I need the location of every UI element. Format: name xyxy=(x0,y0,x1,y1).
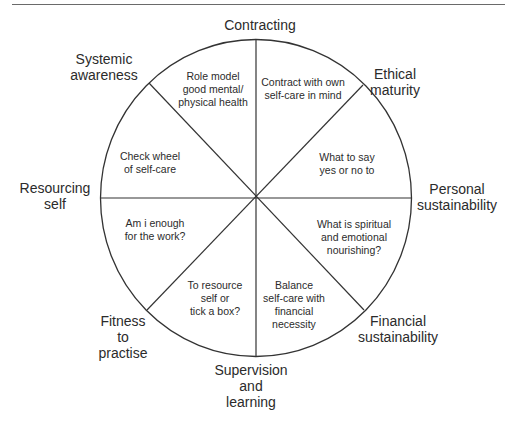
label-systemic-awareness: Systemic awareness xyxy=(70,51,138,83)
segment-top-right: Contract with own self-care in mind xyxy=(261,76,344,102)
segment-upper-right: What to say yes or no to xyxy=(319,151,374,177)
label-supervision-and-learning: Supervision and learning xyxy=(214,362,287,410)
label-fitness-to-practise: Fitness to practise xyxy=(98,313,147,361)
label-financial-sustainability: Financial sustainability xyxy=(358,313,438,345)
segment-bottom-right: Balance self-care with financial necessi… xyxy=(263,279,325,331)
segment-lower-left: Am i enough for the work? xyxy=(125,217,186,243)
segment-bottom-left: To resource self or tick a box? xyxy=(188,279,243,318)
label-contracting: Contracting xyxy=(224,17,296,33)
label-personal-sustainability: Personal sustainability xyxy=(417,181,497,213)
label-resourcing-self: Resourcing self xyxy=(20,180,91,212)
segment-lower-right: What is spiritual and emotional nourishi… xyxy=(317,218,391,257)
segment-top-left: Role model good mental/ physical health xyxy=(178,70,247,109)
label-ethical-maturity: Ethical maturity xyxy=(370,66,420,98)
segment-upper-left: Check wheel of self-care xyxy=(120,150,180,176)
